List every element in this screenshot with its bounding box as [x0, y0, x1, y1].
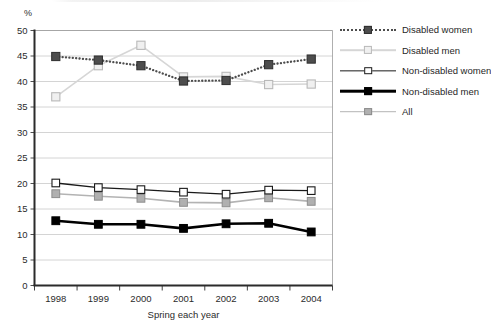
data-point	[307, 228, 315, 236]
legend-swatch	[340, 84, 396, 98]
series-non-disabled-men	[52, 217, 315, 236]
data-point	[94, 220, 102, 228]
legend-marker	[364, 46, 372, 54]
legend-label: Disabled women	[402, 24, 472, 35]
data-point	[52, 93, 60, 101]
data-point	[180, 188, 188, 196]
data-point	[265, 186, 273, 194]
y-tick-label: 10	[17, 229, 28, 240]
data-point	[265, 61, 273, 69]
y-axis: 05101520253035404550	[17, 25, 35, 291]
data-point	[222, 220, 230, 228]
data-point	[222, 199, 230, 207]
legend-label: Non-disabled men	[402, 86, 479, 97]
data-point	[52, 217, 60, 225]
x-axis-title: Spring each year	[148, 309, 220, 320]
legend-marker	[364, 87, 372, 95]
data-point	[222, 190, 230, 198]
y-tick-label: 0	[22, 280, 27, 291]
data-point	[52, 179, 60, 187]
y-tick-label: 30	[17, 127, 28, 138]
data-point	[307, 197, 315, 205]
legend-item: Disabled men	[340, 42, 460, 59]
data-point	[307, 55, 315, 63]
x-tick-label: 2003	[258, 293, 279, 304]
x-tick-label: 1999	[88, 293, 109, 304]
series-disabled-men	[52, 41, 316, 101]
legend-label: Non-disabled women	[402, 65, 491, 76]
y-tick-label: 20	[17, 178, 28, 189]
data-point	[137, 62, 145, 70]
x-tick-label: 2001	[173, 293, 194, 304]
data-point	[137, 220, 145, 228]
y-tick-label: 45	[17, 50, 28, 61]
legend-item: Non-disabled women	[340, 62, 491, 79]
data-point	[95, 184, 103, 192]
data-point	[307, 187, 315, 195]
x-tick-label: 2000	[130, 293, 151, 304]
data-point	[180, 224, 188, 232]
x-tick-label: 1998	[45, 293, 66, 304]
data-point	[52, 52, 60, 60]
y-tick-label: 35	[17, 101, 28, 112]
y-tick-label: 5	[22, 254, 27, 265]
series-disabled-women	[52, 52, 316, 85]
data-point	[265, 80, 273, 88]
data-point	[180, 198, 188, 206]
y-tick-label: 40	[17, 76, 28, 87]
data-point	[94, 192, 102, 200]
y-tick-label: 15	[17, 203, 28, 214]
legend-swatch	[340, 105, 396, 119]
data-point	[137, 186, 145, 194]
legend-label: All	[402, 106, 413, 117]
legend-marker	[364, 67, 372, 75]
legend-swatch	[340, 43, 396, 57]
data-point	[52, 190, 60, 198]
x-tick-label: 2002	[216, 293, 237, 304]
legend-swatch	[340, 64, 396, 78]
legend-marker	[364, 25, 372, 33]
legend-label: Disabled men	[402, 45, 460, 56]
data-point	[179, 77, 187, 85]
data-point	[137, 194, 145, 202]
legend-marker	[364, 108, 372, 116]
legend-item: All	[340, 103, 413, 120]
data-point	[222, 76, 230, 84]
legend-item: Non-disabled men	[340, 83, 479, 100]
data-point	[265, 219, 273, 227]
y-tick-label: 50	[17, 25, 28, 36]
data-point	[307, 80, 315, 88]
data-point	[94, 56, 102, 64]
y-tick-label: 25	[17, 152, 28, 163]
x-tick-label: 2004	[301, 293, 322, 304]
x-axis: 1998199920002001200220032004Spring each …	[35, 286, 333, 320]
legend-item: Disabled women	[340, 21, 472, 38]
data-point	[137, 41, 145, 49]
legend-swatch	[340, 23, 396, 37]
data-point	[265, 194, 273, 202]
plot-frame	[34, 30, 333, 286]
